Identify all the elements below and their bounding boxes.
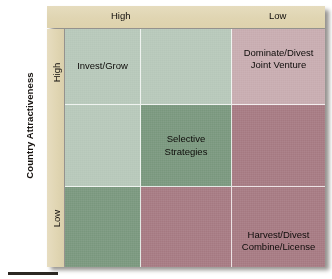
matrix-cell [65,187,141,267]
x-axis-tick-low: Low [269,10,286,21]
caption-rule-fragment [8,272,58,275]
matrix-cell: Selective Strategies [141,105,232,187]
matrix-cell: Dominate/Divest Joint Venture [232,29,325,105]
matrix-cell-label: Selective Strategies [163,133,210,157]
matrix-cell-label: Dominate/Divest Joint Venture [242,47,316,71]
matrix-cell-label: Invest/Grow [75,60,130,72]
matrix-cell-label: Harvest/Divest Combine/License [240,229,317,253]
matrix-cell: Invest/Grow [65,29,141,105]
matrix-cell [141,29,232,105]
y-axis-tick-low: Low [51,197,62,241]
x-axis-tick-high: High [111,10,131,21]
matrix-cell [141,187,232,267]
strategy-matrix-figure: Country Attractiveness High Low High Low… [0,0,332,279]
matrix-grid: Invest/Grow Dominate/Divest Joint Ventur… [65,29,325,267]
y-axis-title: Country Attractiveness [24,41,35,211]
x-axis-band: High Low [47,6,325,28]
y-axis-tick-high: High [51,51,62,95]
y-axis-band: High Low [47,29,64,267]
matrix-cell: Harvest/Divest Combine/License [232,187,325,267]
matrix-cell [65,105,141,187]
matrix-cell [232,105,325,187]
